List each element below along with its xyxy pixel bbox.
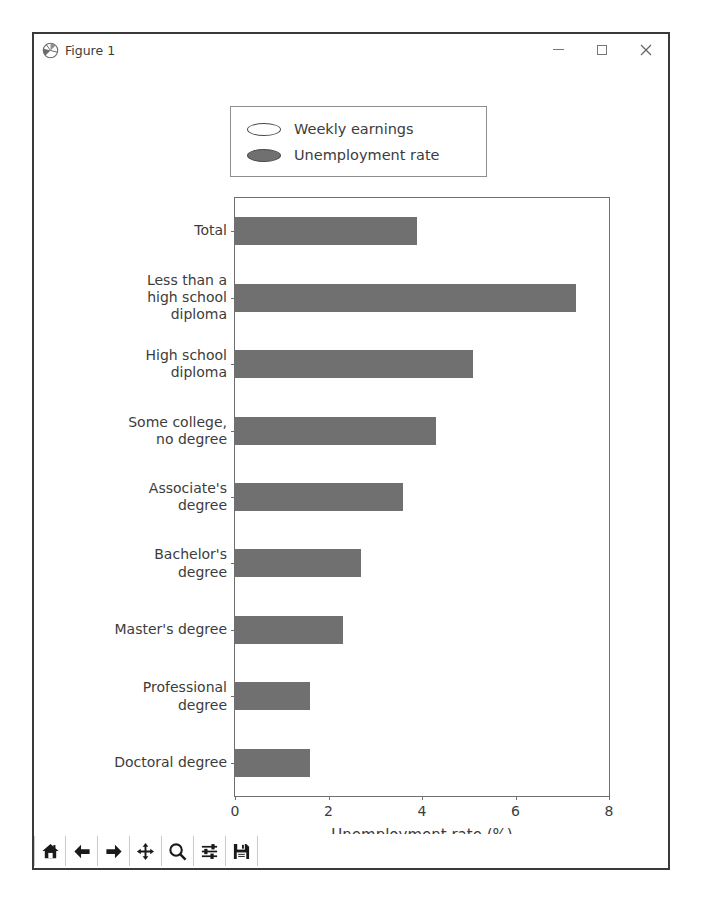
home-icon[interactable]	[34, 836, 66, 866]
y-axis-tick	[231, 298, 235, 299]
y-axis-label: Less than a high school diploma	[57, 272, 227, 324]
matplotlib-icon	[42, 42, 59, 59]
figure-canvas: Weekly earnings Unemployment rate TotalL…	[34, 66, 668, 834]
bar	[235, 350, 473, 378]
window-controls	[536, 34, 668, 66]
legend-label-weekly-earnings: Weekly earnings	[294, 121, 414, 137]
y-axis-label: High school diploma	[57, 347, 227, 381]
y-axis-tick	[231, 696, 235, 697]
y-axis-tick	[231, 364, 235, 365]
title-bar[interactable]: Figure 1	[34, 34, 668, 66]
y-axis-label: Bachelor's degree	[57, 546, 227, 580]
x-axis-tick-label: 8	[605, 803, 614, 819]
y-axis-label: Some college, no degree	[57, 413, 227, 447]
window-title: Figure 1	[65, 43, 115, 58]
navigation-toolbar	[34, 834, 668, 868]
close-button[interactable]	[624, 34, 668, 65]
zoom-magnifier-icon[interactable]	[162, 836, 194, 866]
bar-row: Professional degree	[235, 663, 609, 729]
bar	[235, 217, 417, 245]
x-axis-tick-label: 6	[511, 803, 520, 819]
save-floppy-icon[interactable]	[226, 836, 258, 866]
pan-move-icon[interactable]	[130, 836, 162, 866]
bar-row: Associate's degree	[235, 464, 609, 530]
bar	[235, 616, 343, 644]
maximize-button[interactable]	[580, 34, 624, 65]
y-axis-label: Associate's degree	[57, 480, 227, 514]
minimize-button[interactable]	[536, 34, 580, 65]
bars-layer: TotalLess than a high school diplomaHigh…	[235, 198, 609, 796]
y-axis-label: Professional degree	[57, 679, 227, 713]
bar-row: Master's degree	[235, 597, 609, 663]
bar	[235, 417, 436, 445]
forward-arrow-icon[interactable]	[98, 836, 130, 866]
x-axis-tick-label: 4	[418, 803, 427, 819]
figure-window: Figure 1 Weekly earnings Unemployment ra…	[32, 32, 670, 870]
bar-row: Total	[235, 198, 609, 264]
bar-row: Doctoral degree	[235, 730, 609, 796]
bar	[235, 549, 361, 577]
back-arrow-icon[interactable]	[66, 836, 98, 866]
x-axis-tick	[422, 796, 423, 800]
y-axis-tick	[231, 630, 235, 631]
bar-row: Bachelor's degree	[235, 530, 609, 596]
x-axis-tick	[329, 796, 330, 800]
y-axis-label: Master's degree	[57, 621, 227, 638]
legend-marker-unemployment-rate	[247, 149, 281, 162]
y-axis-tick	[231, 231, 235, 232]
y-axis-tick	[231, 563, 235, 564]
x-axis-tick	[516, 796, 517, 800]
legend-item-unemployment-rate: Unemployment rate	[231, 142, 486, 168]
plot-axes: TotalLess than a high school diplomaHigh…	[234, 197, 610, 797]
bar	[235, 749, 310, 777]
y-axis-tick	[231, 431, 235, 432]
bar-row: Less than a high school diploma	[235, 264, 609, 330]
y-axis-label: Doctoral degree	[57, 754, 227, 771]
y-axis-tick	[231, 763, 235, 764]
bar	[235, 682, 310, 710]
y-axis-label: Total	[57, 223, 227, 240]
bar-row: Some college, no degree	[235, 397, 609, 463]
x-axis-tick-label: 2	[324, 803, 333, 819]
configure-subplots-icon[interactable]	[194, 836, 226, 866]
bar	[235, 284, 576, 312]
x-axis-tick	[235, 796, 236, 800]
bar	[235, 483, 403, 511]
x-axis-tick	[609, 796, 610, 800]
x-axis-tick-label: 0	[231, 803, 240, 819]
legend-label-unemployment-rate: Unemployment rate	[294, 147, 440, 163]
chart-legend: Weekly earnings Unemployment rate	[230, 106, 487, 177]
bar-row: High school diploma	[235, 331, 609, 397]
legend-marker-weekly-earnings	[247, 123, 281, 136]
y-axis-tick	[231, 497, 235, 498]
legend-item-weekly-earnings: Weekly earnings	[231, 116, 486, 142]
